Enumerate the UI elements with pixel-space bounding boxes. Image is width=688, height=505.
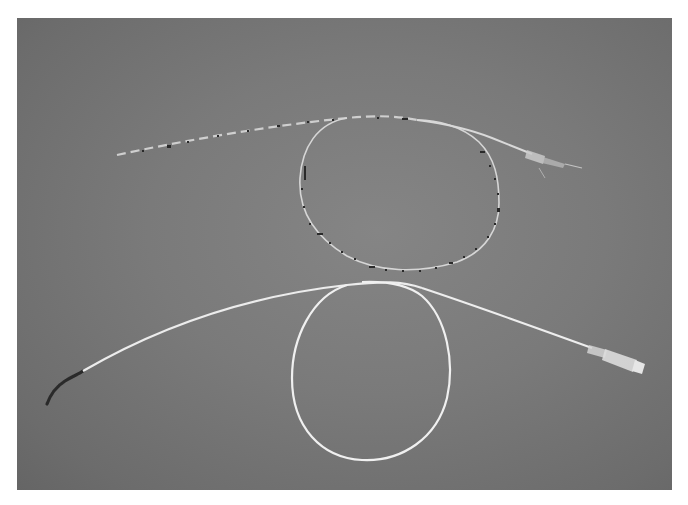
- lower-catheter: [47, 282, 645, 460]
- catheters-illustration: [17, 18, 672, 490]
- photograph: Photograph of two catheters laid on a gr…: [17, 18, 672, 490]
- upper-luer-hub: [525, 150, 582, 178]
- depth-markings: [142, 117, 500, 272]
- upper-catheter: [117, 116, 582, 272]
- catheter-tip: [47, 371, 83, 404]
- lower-luer-hub: [587, 345, 645, 374]
